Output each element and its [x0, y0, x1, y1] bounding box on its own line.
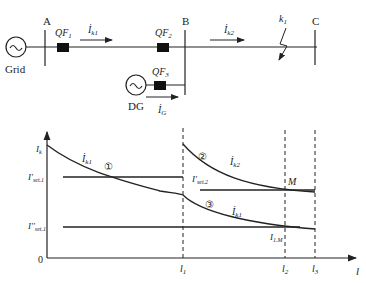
breaker-qf3 — [154, 81, 166, 90]
x-axis-label: l — [356, 265, 359, 277]
curve-3 — [183, 195, 315, 229]
l2-tick: l2 — [282, 263, 289, 276]
breaker-qf2 — [157, 43, 169, 52]
fault-label: k1 — [279, 13, 287, 26]
fault-symbol — [279, 28, 287, 60]
m-label: M — [287, 176, 297, 187]
dg-source — [126, 75, 146, 95]
curve-1 — [47, 145, 183, 195]
diagram: Grid A QF1 İk1 QF2 B İk2 k1 C QF3 DG İG … — [0, 0, 366, 283]
origin-label: 0 — [38, 254, 43, 265]
bus-c-label: C — [312, 15, 319, 27]
grid-label: Grid — [5, 63, 26, 75]
bus-b-label: B — [182, 15, 189, 27]
bus-a-label: A — [43, 15, 51, 27]
curve-2-label: İk2 — [229, 156, 240, 169]
curve-3-marker: ③ — [205, 199, 214, 210]
iset1-tick: I'set.1 — [27, 172, 44, 183]
iset2-label: I'set.2 — [191, 174, 208, 185]
grid-source — [6, 37, 26, 57]
i1m-label: I1.M — [269, 232, 284, 243]
iset1pp-tick: I''set.1 — [27, 221, 46, 232]
l1-tick: l1 — [180, 263, 186, 276]
curve-2-marker: ② — [198, 151, 207, 162]
breaker-qf3-label: QF3 — [152, 66, 169, 79]
dg-label: DG — [128, 100, 144, 112]
breaker-qf1-label: QF1 — [55, 27, 72, 40]
ik2-label: İk2 — [223, 24, 234, 37]
ig-label: İG — [157, 104, 166, 117]
curve-1-marker: ① — [104, 161, 113, 172]
breaker-qf1 — [57, 43, 69, 52]
l3-tick: l3 — [312, 263, 319, 276]
breaker-qf2-label: QF2 — [155, 27, 172, 40]
ik-tick: Ik — [35, 144, 42, 155]
ik1-label: İk1 — [87, 24, 98, 37]
curve-1-label: İk1 — [81, 153, 92, 166]
